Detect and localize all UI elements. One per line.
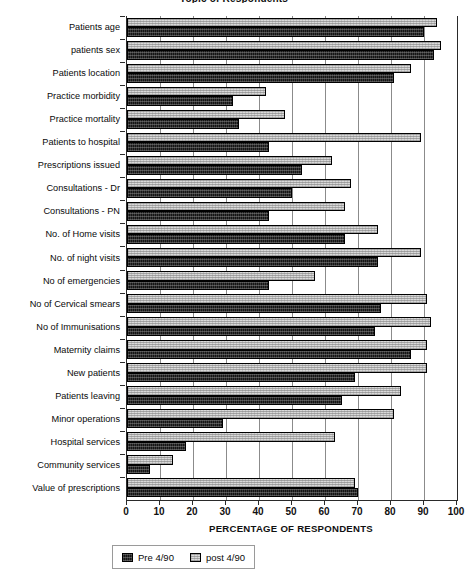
bar-group: [127, 270, 457, 293]
bar-group: [127, 16, 457, 39]
bar-pre-4-90: [127, 304, 381, 314]
y-axis-tick: [120, 108, 125, 109]
y-axis-tick: [120, 385, 125, 386]
y-axis-tick: [120, 339, 125, 340]
bar-post-4-90: [127, 225, 378, 235]
bar-group: [127, 223, 457, 246]
bar-pre-4-90: [127, 27, 424, 37]
x-axis-tick-label: 50: [276, 506, 306, 517]
y-axis-label: Hospital services: [0, 437, 120, 447]
y-axis-tick: [120, 454, 125, 455]
bar-post-4-90: [127, 386, 401, 396]
bar-chart: Topic of Respondents Patients agepatient…: [0, 0, 468, 577]
bar-pre-4-90: [127, 234, 345, 244]
y-axis-label: New patients: [0, 368, 120, 378]
bar-post-4-90: [127, 271, 315, 281]
bar-group: [127, 246, 457, 269]
bar-group: [127, 85, 457, 108]
x-axis-tick-label: 20: [177, 506, 207, 517]
y-axis-label: Value of prescriptions: [0, 483, 120, 493]
y-axis-tick: [120, 362, 125, 363]
y-axis-label: No of Cervical smears: [0, 299, 120, 309]
bar-pre-4-90: [127, 396, 342, 406]
bar-pre-4-90: [127, 165, 302, 175]
chart-title: Topic of Respondents: [0, 0, 468, 3]
y-axis-tick: [120, 16, 125, 17]
bar-pre-4-90: [127, 488, 358, 498]
bar-group: [127, 362, 457, 385]
bar-pre-4-90: [127, 73, 394, 83]
bar-pre-4-90: [127, 442, 186, 452]
y-axis-tick: [120, 477, 125, 478]
x-axis-tick: [324, 500, 325, 505]
y-axis-label: No of emergencies: [0, 276, 120, 286]
bar-post-4-90: [127, 18, 437, 28]
legend-label: Pre 4/90: [138, 552, 174, 563]
bar-group: [127, 339, 457, 362]
x-axis-tick-label: 90: [408, 506, 438, 517]
bar-group: [127, 62, 457, 85]
y-axis-tick: [120, 223, 125, 224]
y-axis-label: Patients age: [0, 22, 120, 32]
y-axis-tick: [120, 39, 125, 40]
x-axis-tick: [456, 500, 457, 505]
y-axis-tick: [120, 316, 125, 317]
x-axis-tick-label: 70: [342, 506, 372, 517]
bar-post-4-90: [127, 363, 427, 373]
bar-group: [127, 316, 457, 339]
bar-group: [127, 293, 457, 316]
bar-group: [127, 177, 457, 200]
y-axis-label: Patients to hospital: [0, 137, 120, 147]
y-axis-label: Practice morbidity: [0, 91, 120, 101]
bar-post-4-90: [127, 340, 427, 350]
y-axis-label: Patients leaving: [0, 391, 120, 401]
bar-group: [127, 385, 457, 408]
y-axis-tick: [120, 131, 125, 132]
y-axis-label: Minor operations: [0, 414, 120, 424]
bar-group: [127, 200, 457, 223]
bar-pre-4-90: [127, 142, 269, 152]
bar-post-4-90: [127, 294, 427, 304]
y-axis-label: Practice mortality: [0, 114, 120, 124]
y-axis-tick: [120, 85, 125, 86]
y-axis-label: Consultations - Dr: [0, 183, 120, 193]
x-axis-tick: [225, 500, 226, 505]
bar-pre-4-90: [127, 465, 150, 475]
bar-pre-4-90: [127, 373, 355, 383]
x-axis-tick-label: 100: [441, 506, 468, 517]
y-axis-label: No. of night visits: [0, 253, 120, 263]
bar-pre-4-90: [127, 119, 239, 129]
bar-post-4-90: [127, 87, 266, 97]
bar-group: [127, 39, 457, 62]
y-axis-tick: [120, 408, 125, 409]
bar-post-4-90: [127, 64, 411, 74]
bar-post-4-90: [127, 455, 173, 465]
x-axis-tick-label: 10: [144, 506, 174, 517]
bar-pre-4-90: [127, 188, 292, 198]
x-axis-tick-label: 0: [111, 506, 141, 517]
x-axis-tick: [159, 500, 160, 505]
y-axis-tick: [120, 431, 125, 432]
bar-post-4-90: [127, 432, 335, 442]
bar-pre-4-90: [127, 419, 223, 429]
x-axis-tick: [423, 500, 424, 505]
bar-group: [127, 477, 457, 500]
bar-post-4-90: [127, 202, 345, 212]
x-axis-title: PERCENTAGE OF RESPONDENTS: [126, 523, 456, 534]
bar-group: [127, 131, 457, 154]
bar-post-4-90: [127, 110, 285, 120]
x-axis-tick-label: 40: [243, 506, 273, 517]
bar-post-4-90: [127, 179, 351, 189]
y-axis-label: No. of Home visits: [0, 229, 120, 239]
x-axis-tick-label: 80: [375, 506, 405, 517]
y-axis-label: patients sex: [0, 45, 120, 55]
bar-post-4-90: [127, 478, 355, 488]
y-axis-tick: [120, 293, 125, 294]
x-axis-tick: [192, 500, 193, 505]
x-axis-tick: [126, 500, 127, 505]
legend-entry: post 4/90: [190, 552, 245, 563]
y-axis-tick: [120, 154, 125, 155]
y-axis-label: No of Immunisations: [0, 322, 120, 332]
bar-pre-4-90: [127, 211, 269, 221]
legend-entry: Pre 4/90: [122, 552, 174, 563]
